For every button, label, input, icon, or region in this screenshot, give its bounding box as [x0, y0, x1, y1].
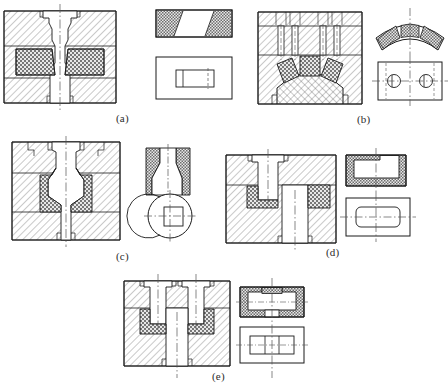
- group-b-section: [258, 12, 362, 104]
- group-d-detail-plan: [340, 192, 416, 242]
- group-a-detail-elevation: [156, 10, 232, 37]
- caption-c: (c): [116, 250, 129, 262]
- drawing-canvas: [0, 0, 448, 391]
- group-e-section: [124, 274, 230, 378]
- group-a-detail-plan: [156, 57, 232, 99]
- group-c-detail-elevation: [146, 144, 190, 200]
- group-d-detail-elevation: [346, 148, 406, 192]
- caption-b: (b): [357, 113, 370, 125]
- group-c-detail-plan: [127, 190, 196, 243]
- group-d-section: [226, 149, 336, 250]
- group-c-section: [12, 136, 120, 247]
- group-b-detail-plan: [372, 56, 448, 106]
- group-b-detail-arc: [376, 8, 444, 56]
- engineering-drawing-plate: (a) (b) (c) (d) (e): [0, 0, 448, 391]
- caption-d: (d): [326, 246, 339, 258]
- group-a-section: [4, 4, 116, 110]
- caption-a: (a): [116, 112, 129, 124]
- caption-e: (e): [212, 370, 225, 382]
